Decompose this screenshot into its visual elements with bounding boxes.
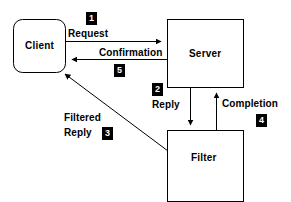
node-label-client: Client xyxy=(25,40,54,51)
edge-label-confirmation: Confirmation xyxy=(99,47,162,58)
step-badge-2: 2 xyxy=(152,83,163,96)
edge-label-completion: Completion xyxy=(222,98,278,109)
step-badge-3: 3 xyxy=(102,127,113,140)
step-badge-4: 4 xyxy=(256,114,267,127)
node-label-filter: Filter xyxy=(191,152,217,163)
diagram-canvas: Client Server Filter 1 Request Confirmat… xyxy=(0,0,291,202)
edge-label-request: Request xyxy=(68,28,108,39)
node-label-server: Server xyxy=(189,48,221,59)
step-badge-1: 1 xyxy=(86,12,97,25)
edge-label-filtered-reply-line1: Filtered xyxy=(64,112,101,123)
step-badge-5: 5 xyxy=(114,64,125,77)
edge-label-filtered-reply-line2: Reply xyxy=(64,127,92,138)
edge-label-reply: Reply xyxy=(152,99,180,110)
node-filter-shape[interactable] xyxy=(168,131,244,202)
